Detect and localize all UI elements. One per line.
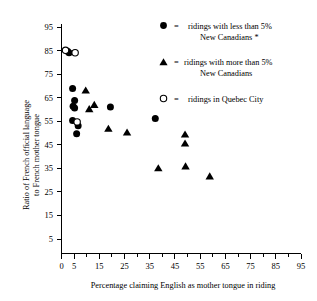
legend-marker-filled-circle-icon [160, 22, 167, 29]
y-tick-label-85: 85 [45, 46, 54, 56]
y-axis-ticks [57, 27, 62, 239]
y-tick-label-15: 15 [45, 210, 54, 220]
legend-equals-1: = [174, 22, 179, 31]
data-point-triangle [123, 128, 131, 135]
scatter-chart: Ratio of French official language to Fre… [0, 0, 317, 301]
legend-marker-open-circle-icon [160, 95, 166, 101]
y-tick-label-75: 75 [45, 69, 54, 79]
x-tick-label-45: 45 [171, 261, 180, 271]
y-tick-label-5: 5 [49, 234, 53, 244]
data-point-open-circle [72, 50, 78, 56]
y-tick-label-55: 55 [45, 116, 54, 126]
y-axis-tick-labels: 95 85 75 65 55 45 35 25 15 5 [45, 22, 54, 244]
legend-equals-2: = [174, 58, 179, 67]
x-tick-label-25: 25 [120, 261, 129, 271]
legend-label-1-line2: New Canadians * [200, 33, 259, 42]
data-point-triangle [154, 164, 162, 171]
data-point-open-circle [62, 47, 68, 53]
data-point-triangle [181, 162, 189, 169]
y-axis-title-line2: to French mother tongue [32, 114, 41, 196]
x-axis-title: Percentage claiming English as mother to… [91, 281, 276, 290]
legend-label-1-line1: ridings with less than 5% [188, 22, 272, 31]
legend-label-2-line2: New Canadians [200, 69, 252, 78]
y-tick-label-25: 25 [45, 187, 54, 197]
y-axis-title-line1: Ratio of French official language [22, 100, 31, 210]
x-tick-label-35: 35 [145, 261, 154, 271]
x-axis-ticks [62, 254, 302, 259]
data-point-filled-circle [73, 130, 80, 137]
data-point-triangle [81, 87, 89, 94]
y-axis-title: Ratio of French official language to Fre… [22, 100, 41, 210]
x-tick-label-65: 65 [221, 261, 230, 271]
chart-svg: Ratio of French official language to Fre… [0, 0, 317, 301]
y-tick-label-95: 95 [45, 22, 54, 32]
x-tick-label-5: 5 [72, 261, 76, 271]
data-point-triangle [181, 130, 189, 137]
x-tick-label-75: 75 [246, 261, 255, 271]
x-tick-label-0: 0 [59, 261, 63, 271]
legend: = ridings with less than 5% New Canadian… [159, 22, 272, 104]
x-tick-label-85: 85 [272, 261, 281, 271]
y-tick-label-45: 45 [45, 140, 54, 150]
data-point-triangle [90, 101, 98, 108]
data-point-open-circle [74, 119, 80, 125]
x-tick-label-55: 55 [196, 261, 205, 271]
data-point-filled-circle [71, 105, 78, 112]
data-point-filled-circle [69, 85, 76, 92]
x-axis-tick-labels: 0 5 15 25 35 45 55 65 75 85 95 [59, 261, 305, 271]
legend-marker-filled-triangle-icon [159, 58, 167, 65]
data-point-triangle [206, 172, 214, 179]
legend-label-2-line1: ridings with more than 5% [184, 58, 273, 67]
x-tick-label-15: 15 [95, 261, 104, 271]
legend-equals-3: = [174, 95, 179, 104]
data-point-layer [62, 47, 214, 179]
x-tick-label-95: 95 [297, 261, 306, 271]
data-point-filled-circle [152, 115, 159, 122]
legend-label-3-line1: ridings in Quebec City [188, 95, 264, 104]
data-point-triangle [104, 125, 112, 132]
data-point-triangle [181, 139, 189, 146]
y-tick-label-65: 65 [45, 93, 54, 103]
y-tick-label-35: 35 [45, 163, 54, 173]
data-point-filled-circle [107, 104, 114, 111]
